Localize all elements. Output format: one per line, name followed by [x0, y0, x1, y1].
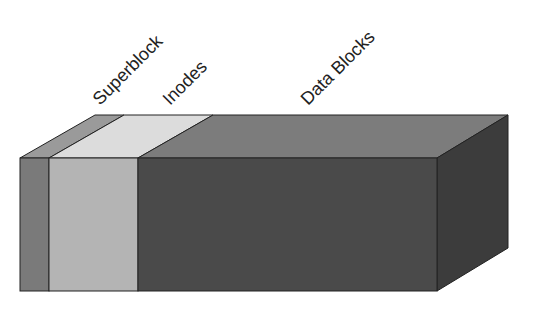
filesystem-block-diagram: Superblock Inodes Data Blocks [0, 0, 535, 310]
data-blocks-front-face [138, 158, 437, 291]
inodes-front-face [49, 158, 138, 291]
superblock-label: Superblock [89, 30, 168, 109]
data-blocks-label: Data Blocks [297, 27, 379, 109]
superblock-front-face [20, 158, 49, 291]
inodes-label: Inodes [159, 56, 211, 108]
